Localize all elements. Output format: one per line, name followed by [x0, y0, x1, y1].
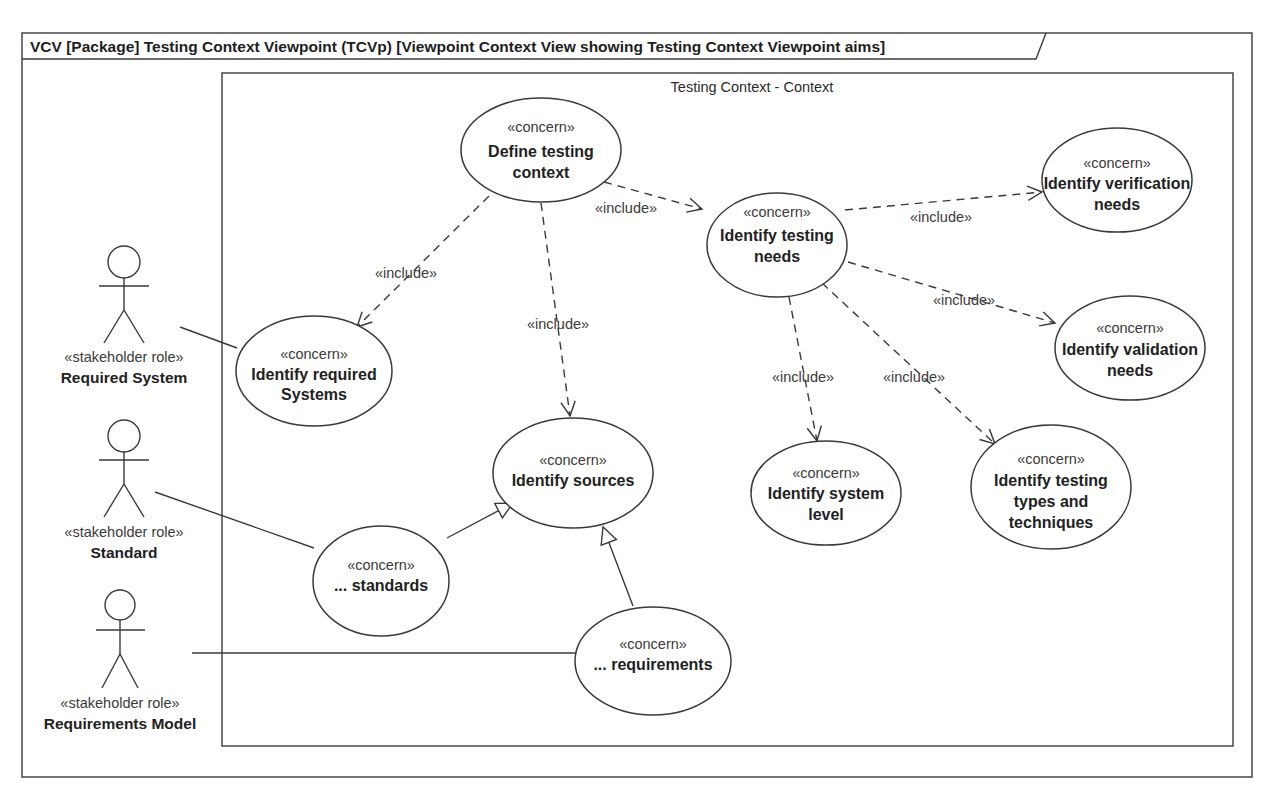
include-label: «include» [772, 369, 834, 385]
svg-text:Requirements Model: Requirements Model [44, 715, 196, 732]
stick-figure-icon [99, 420, 149, 517]
generalization-requirements-to-sources[interactable] [603, 527, 633, 606]
svg-text:Identify required: Identify required [251, 366, 376, 383]
svg-text:Systems: Systems [281, 386, 347, 403]
svg-text:«stakeholder role»: «stakeholder role» [60, 695, 179, 711]
concern-identify-system-level[interactable]: «concern» Identify system level [751, 441, 901, 545]
svg-text:Define testing: Define testing [488, 143, 594, 160]
include-define-to-required-systems[interactable] [357, 196, 489, 327]
include-needs-to-verification[interactable] [845, 192, 1042, 210]
include-label: «include» [910, 209, 972, 225]
svg-text:«concern»: «concern» [792, 465, 860, 481]
include-label: «include» [933, 292, 995, 308]
svg-text:needs: needs [754, 248, 800, 265]
boundary-title: Testing Context - Context [671, 79, 834, 95]
svg-text:Identify sources: Identify sources [512, 472, 635, 489]
svg-text:«concern»: «concern» [280, 346, 348, 362]
generalization-standards-to-sources[interactable] [447, 503, 513, 538]
svg-text:«concern»: «concern» [743, 204, 811, 220]
svg-text:«concern»: «concern» [619, 636, 687, 652]
svg-text:Identify validation: Identify validation [1062, 341, 1198, 358]
svg-text:Required System: Required System [61, 369, 188, 386]
svg-text:Standard: Standard [90, 544, 157, 561]
frame-title: VCV [Package] Testing Context Viewpoint … [30, 38, 885, 55]
svg-text:Identify system: Identify system [768, 485, 884, 502]
concern-standards[interactable]: «concern» ... standards [313, 526, 449, 636]
svg-text:... standards: ... standards [334, 577, 428, 594]
svg-text:«concern»: «concern» [507, 119, 575, 135]
svg-text:techniques: techniques [1009, 514, 1094, 531]
svg-text:«stakeholder role»: «stakeholder role» [64, 524, 183, 540]
concern-requirements[interactable]: «concern» ... requirements [575, 607, 731, 715]
svg-text:needs: needs [1094, 196, 1140, 213]
actor-requirements-model[interactable]: «stakeholder role» Requirements Model [44, 590, 196, 732]
svg-text:... requirements: ... requirements [593, 656, 712, 673]
actor-standard[interactable]: «stakeholder role» Standard [64, 420, 183, 561]
svg-text:«stakeholder role»: «stakeholder role» [64, 349, 183, 365]
concern-define-testing-context[interactable]: «concern» Define testing context [461, 98, 621, 202]
svg-text:«concern»: «concern» [1096, 320, 1164, 336]
stick-figure-icon [99, 246, 149, 343]
svg-text:level: level [808, 506, 844, 523]
concern-identify-sources[interactable]: «concern» Identify sources [493, 418, 653, 528]
svg-text:Identify testing: Identify testing [994, 472, 1108, 489]
use-case-diagram: VCV [Package] Testing Context Viewpoint … [0, 0, 1270, 797]
svg-text:Identify testing: Identify testing [720, 227, 834, 244]
include-label: «include» [595, 200, 657, 216]
svg-text:«concern»: «concern» [539, 452, 607, 468]
concern-identify-verification-needs[interactable]: «concern» Identify verification needs [1042, 128, 1192, 232]
concern-identify-validation-needs[interactable]: «concern» Identify validation needs [1055, 296, 1205, 400]
svg-text:«concern»: «concern» [347, 557, 415, 573]
concern-identify-testing-types[interactable]: «concern» Identify testing types and tec… [971, 425, 1131, 549]
association-required-system[interactable] [180, 327, 237, 348]
svg-text:context: context [513, 164, 571, 181]
svg-text:needs: needs [1107, 362, 1153, 379]
svg-text:«concern»: «concern» [1017, 451, 1085, 467]
actor-required-system[interactable]: «stakeholder role» Required System [61, 246, 188, 386]
include-define-to-sources[interactable] [541, 203, 570, 416]
stick-figure-icon [96, 590, 145, 688]
svg-text:«concern»: «concern» [1083, 155, 1151, 171]
include-label: «include» [527, 316, 589, 332]
include-label: «include» [883, 369, 945, 385]
svg-text:Identify verification: Identify verification [1044, 175, 1191, 192]
concern-identify-required-systems[interactable]: «concern» Identify required Systems [236, 316, 392, 426]
svg-text:types and: types and [1014, 493, 1089, 510]
concern-identify-testing-needs[interactable]: «concern» Identify testing needs [707, 193, 847, 297]
include-label: «include» [375, 265, 437, 281]
